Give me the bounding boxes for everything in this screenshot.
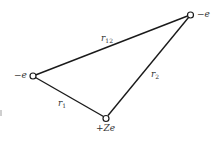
edge-artifact [0, 110, 2, 116]
edge-r1 [36, 78, 104, 117]
label-electron-1: −e [14, 71, 27, 80]
node-nucleus-icon [103, 116, 109, 122]
label-r2: r2 [151, 70, 159, 80]
three-body-diagram: −e −e +Ze r12 r2 r1 [0, 0, 218, 142]
diagram-lines [0, 0, 218, 142]
label-r12: r12 [101, 34, 113, 44]
label-nucleus: +Ze [96, 124, 115, 133]
node-electron-1-icon [30, 73, 36, 79]
label-electron-2: −e [197, 10, 210, 19]
label-r1: r1 [58, 99, 66, 109]
node-electron-2-icon [188, 12, 194, 18]
edge-r2 [108, 18, 189, 116]
